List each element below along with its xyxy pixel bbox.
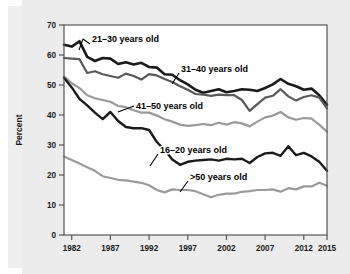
y-tick-label: 60 [47, 51, 57, 60]
y-axis-label: Percent [14, 114, 24, 145]
y-tick-label: 20 [47, 171, 57, 180]
series-label: 31–40 years old [181, 64, 248, 74]
series-label: >50 years old [190, 172, 247, 182]
series-label: 21–30 years old [92, 34, 159, 44]
series-label: 16–20 years old [160, 145, 227, 155]
y-tick-label: 70 [47, 21, 57, 30]
y-tick-label: 10 [47, 201, 57, 210]
x-axis-ticks: 19821987199219972002200720122015 [63, 235, 337, 253]
x-tick-label: 2015 [318, 244, 337, 253]
x-tick-label: 2002 [217, 244, 236, 253]
y-tick-label: 30 [47, 141, 57, 150]
y-tick-label: 50 [47, 81, 57, 90]
x-tick-label: 1997 [179, 244, 198, 253]
line-chart: 010203040506070 198219871992199720022007… [0, 0, 350, 274]
series-label: 41–50 years old [136, 101, 203, 111]
chart-figure: 010203040506070 198219871992199720022007… [0, 0, 350, 274]
plot-area [64, 25, 327, 235]
y-tick-label: 0 [51, 231, 56, 240]
x-tick-label: 1992 [140, 244, 159, 253]
x-tick-label: 2007 [256, 244, 275, 253]
y-axis-ticks: 010203040506070 [47, 21, 64, 240]
x-tick-label: 1987 [101, 244, 120, 253]
x-tick-label: 2012 [295, 244, 314, 253]
y-tick-label: 40 [47, 111, 57, 120]
x-tick-label: 1982 [63, 244, 82, 253]
